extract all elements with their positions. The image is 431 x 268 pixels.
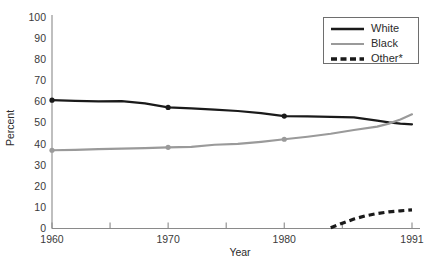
- y-tick-label: 80: [34, 53, 46, 65]
- x-tick-labels: 1960197019801991: [40, 233, 424, 245]
- y-tick-label: 30: [34, 159, 46, 171]
- y-axis-title: Percent: [4, 110, 16, 146]
- chart-container: 0102030405060708090100 1960197019801991 …: [0, 0, 431, 268]
- y-tick-labels: 0102030405060708090100: [28, 11, 46, 234]
- y-tick-label: 90: [34, 32, 46, 44]
- legend-label-black: Black: [371, 37, 398, 49]
- data-point-marker: [49, 148, 54, 153]
- y-tick-label: 70: [34, 74, 46, 86]
- line-chart: 0102030405060708090100 1960197019801991 …: [0, 0, 431, 268]
- series-line-other: [331, 210, 412, 228]
- x-tick-label: 1970: [156, 233, 180, 245]
- y-tick-label: 60: [34, 95, 46, 107]
- legend-label-white: White: [371, 22, 399, 34]
- legend-label-other: Other*: [371, 52, 404, 64]
- y-tick-label: 20: [34, 180, 46, 192]
- y-tick-label: 50: [34, 116, 46, 128]
- y-tick-label: 10: [34, 201, 46, 213]
- x-axis-title: Year: [229, 246, 251, 258]
- x-tick-marks: [52, 223, 412, 229]
- series-line-black: [52, 114, 412, 150]
- data-point-markers: [49, 98, 286, 153]
- y-tick-label: 100: [28, 11, 46, 23]
- data-point-marker: [282, 137, 287, 142]
- x-tick-label: 1960: [40, 233, 64, 245]
- x-tick-label: 1980: [273, 233, 297, 245]
- y-tick-label: 40: [34, 138, 46, 150]
- data-series-layer: [52, 100, 412, 227]
- data-point-marker: [282, 113, 287, 118]
- data-point-marker: [49, 98, 54, 103]
- data-point-marker: [166, 105, 171, 110]
- x-tick-label: 1991: [400, 233, 424, 245]
- data-point-marker: [166, 145, 171, 150]
- series-line-white: [52, 100, 412, 124]
- legend: WhiteBlackOther*: [324, 18, 419, 64]
